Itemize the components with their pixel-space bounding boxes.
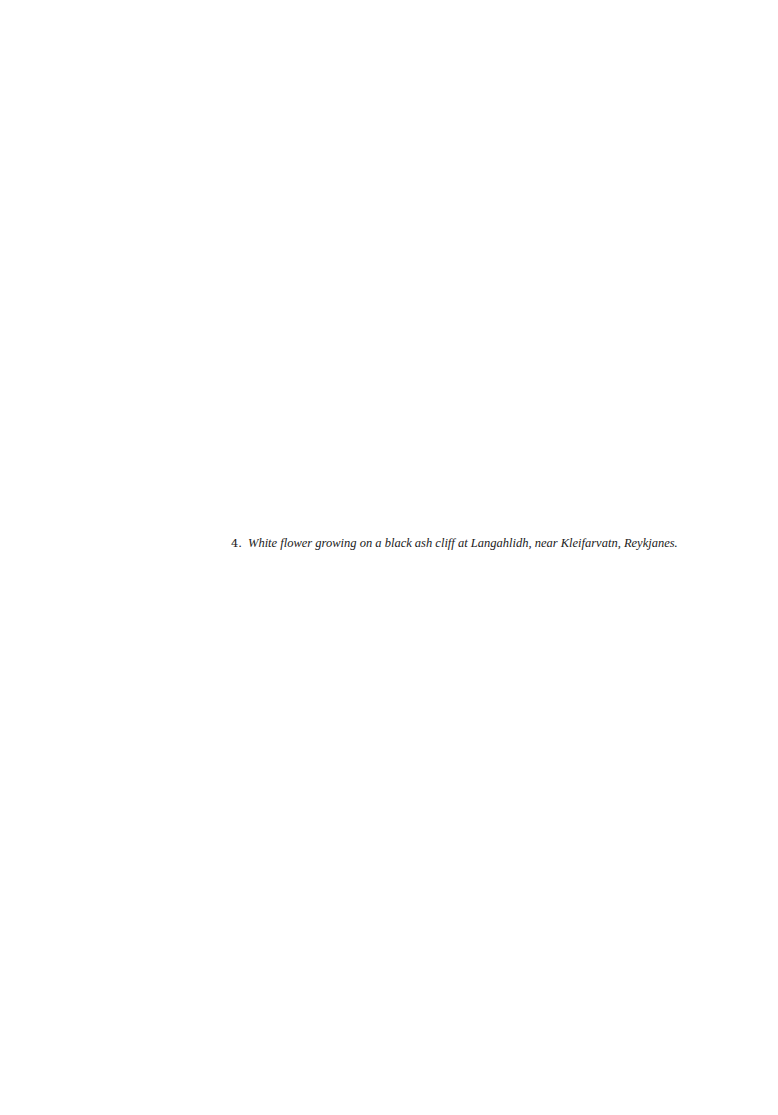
figure-caption: 4.White flower growing on a black ash cl…	[231, 536, 678, 551]
figure-caption-text: White flower growing on a black ash clif…	[248, 536, 678, 550]
document-page: 4.White flower growing on a black ash cl…	[0, 0, 778, 1115]
figure-number: 4.	[231, 536, 242, 550]
